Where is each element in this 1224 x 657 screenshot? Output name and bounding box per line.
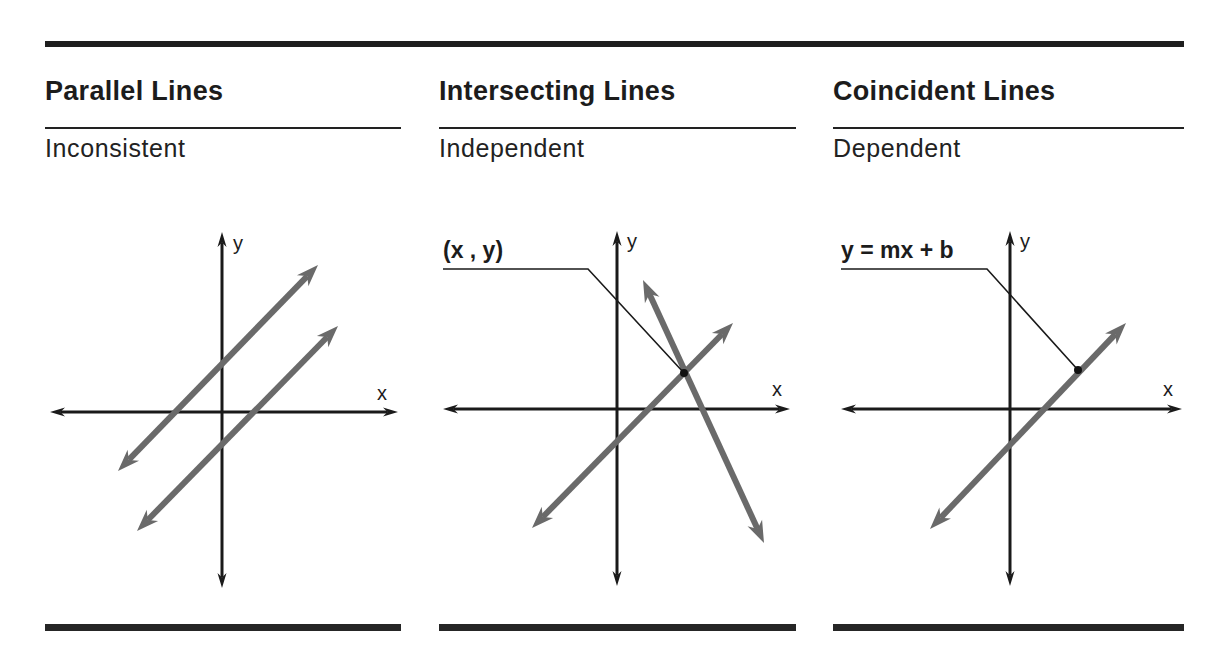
plot-intersecting: yx(x , y) [443,230,790,586]
x-axis-label: x [1163,378,1173,400]
annotation-label: (x , y) [443,237,503,263]
graph-line [941,334,1116,518]
y-axis-label: y [1020,230,1030,252]
point-marker-icon [680,369,688,377]
x-axis-label: x [772,378,782,400]
graph-line [543,334,722,517]
graph-line [649,294,757,529]
annotation-label: y = mx + b [841,237,954,263]
point-marker-icon [1074,366,1082,374]
leader-line [443,269,684,373]
coordinate-plots: yxyx(x , y)yxy = mx + b [0,0,1224,657]
x-axis-label: x [377,382,387,404]
plot-parallel: yx [50,232,398,588]
y-axis-label: y [233,232,243,254]
graph-line [148,337,327,520]
y-axis-label: y [627,230,637,252]
leader-line [841,269,1078,370]
plot-coincident: yxy = mx + b [841,230,1182,586]
graph-line [129,276,308,460]
